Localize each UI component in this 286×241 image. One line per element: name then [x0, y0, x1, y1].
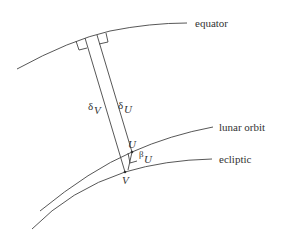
delta-u-symbol: δ	[118, 99, 123, 111]
declination-u-line	[97, 35, 132, 152]
beta-u-subscript: U	[144, 153, 153, 165]
delta-v-subscript: V	[94, 104, 102, 116]
right-angle-marker-beta	[128, 153, 137, 163]
lunar-orbit-label: lunar orbit	[219, 121, 265, 133]
point-v-dot	[124, 171, 127, 174]
celestial-diagram: equator lunar orbit ecliptic δ V δ U U V…	[0, 0, 286, 241]
point-v-label: V	[122, 174, 130, 186]
right-angle-marker-v	[76, 41, 87, 50]
delta-v-symbol: δ	[88, 100, 93, 112]
equator-label: equator	[195, 17, 228, 29]
point-u-label: U	[128, 138, 137, 150]
delta-u-subscript: U	[124, 103, 133, 115]
point-u-dot	[131, 151, 134, 154]
lunar-orbit-curve	[40, 127, 213, 211]
equator-curve	[17, 23, 187, 69]
right-angle-marker-u	[99, 33, 108, 44]
ecliptic-curve	[32, 159, 212, 229]
ecliptic-label: ecliptic	[219, 153, 251, 165]
